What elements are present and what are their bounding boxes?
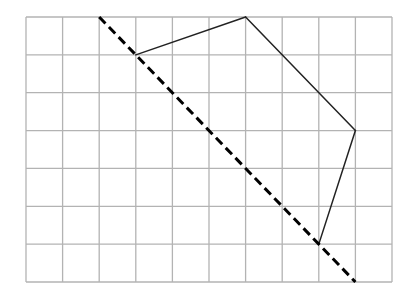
shape-edge bbox=[319, 131, 356, 245]
symmetry-line-group bbox=[99, 17, 355, 282]
grid bbox=[26, 17, 392, 282]
shape-edge bbox=[136, 17, 246, 55]
grid-diagram bbox=[0, 0, 408, 294]
symmetry-line bbox=[99, 17, 355, 282]
shape-edge bbox=[246, 17, 356, 131]
